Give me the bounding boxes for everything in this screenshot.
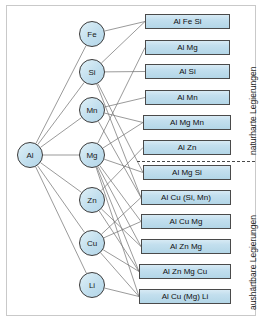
alloy-box-a6[interactable]: Al Zn (143, 140, 231, 155)
node-si-label: Si (88, 68, 95, 77)
node-si[interactable]: Si (79, 59, 105, 85)
alloy-box-a9[interactable]: Al Cu Mg (141, 214, 231, 229)
connector-root-si (38, 82, 84, 144)
node-mn[interactable]: Mn (79, 97, 105, 123)
connector-root-fe (36, 46, 86, 144)
connector-cu-a12 (101, 253, 139, 297)
connector-root-cu (37, 166, 84, 233)
connector-si-a1 (101, 22, 145, 64)
alloy-box-a8[interactable]: Al Cu (Si, Mn) (141, 190, 231, 205)
node-cu-label: Cu (87, 239, 97, 248)
alloy-box-a2[interactable]: Al Mg (145, 40, 230, 55)
node-li[interactable]: Li (79, 272, 105, 298)
alloy-box-a12[interactable]: Al Cu (Mg) Li (139, 289, 231, 304)
alloy-box-a7[interactable]: Al Mg Si (143, 165, 231, 180)
connector-zn-a10 (101, 209, 141, 247)
connector-cu-a11 (103, 250, 139, 272)
node-cu[interactable]: Cu (79, 230, 105, 256)
connector-fe-a1 (105, 22, 145, 32)
connector-cu-a8 (102, 198, 141, 235)
node-zn-label: Zn (87, 196, 96, 205)
group-divider-dashed-line (137, 161, 255, 162)
connector-mn-a4 (105, 98, 145, 108)
alloy-box-a1[interactable]: Al Fe Si (145, 14, 230, 29)
node-mg-label: Mg (86, 151, 97, 160)
node-fe-label: Fe (87, 30, 96, 39)
connector-mg-a5 (103, 123, 143, 149)
side-label-aushaertbar: aushärtbare Legierungen (248, 215, 258, 310)
node-al-root[interactable]: Al (17, 142, 43, 168)
node-li-label: Li (89, 281, 95, 290)
connector-zn-a11 (99, 211, 139, 272)
alloy-box-a5[interactable]: Al Mg Mn (143, 115, 231, 130)
side-label-naturhart: naturharte Legierungen (248, 67, 258, 155)
connector-zn-a6 (101, 148, 143, 191)
diagram-frame: AlFeSiMnMgZnCuLi Al Fe SiAl MgAl SiAl Mn… (0, 0, 263, 323)
connector-root-zn (41, 163, 82, 193)
node-zn[interactable]: Zn (79, 187, 105, 213)
connector-mg-a2 (98, 48, 145, 144)
node-fe[interactable]: Fe (79, 21, 105, 47)
node-al-root-label: Al (26, 151, 33, 160)
connector-mg-a10 (98, 166, 141, 246)
node-mg[interactable]: Mg (79, 142, 105, 168)
connector-li-a12 (105, 288, 139, 296)
alloy-box-a3[interactable]: Al Si (145, 64, 230, 79)
connector-root-li (36, 167, 87, 274)
connector-cu-a9 (104, 222, 141, 238)
alloy-box-a10[interactable]: Al Zn Mg (141, 239, 231, 254)
alloy-box-a4[interactable]: Al Mn (145, 90, 230, 105)
node-mn-label: Mn (86, 106, 97, 115)
alloy-box-a11[interactable]: Al Zn Mg Cu (139, 264, 231, 279)
